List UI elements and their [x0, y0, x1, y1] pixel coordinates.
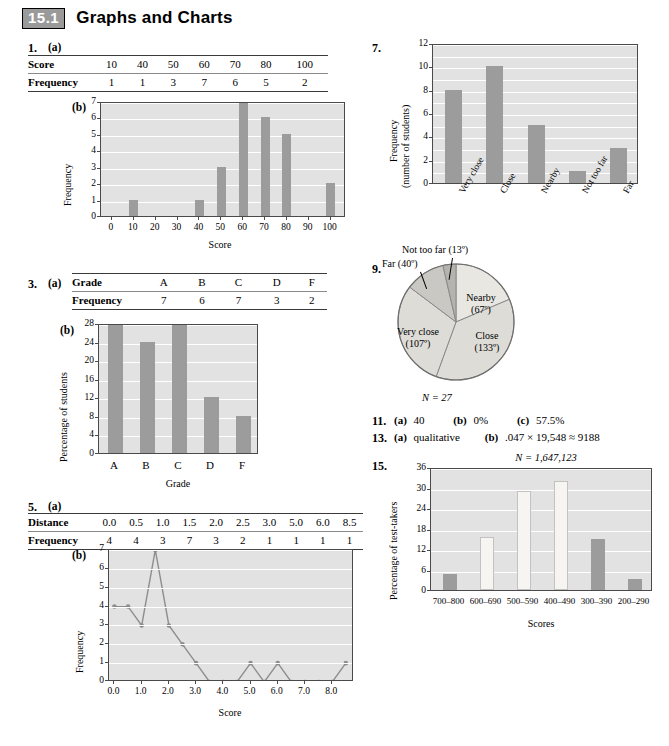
table-cell: 7: [189, 74, 220, 92]
x-tick-label: A: [99, 460, 129, 471]
y-tick-label: 10: [406, 62, 428, 72]
problem-11-b-tag: (b): [453, 414, 466, 426]
pie-label-nearby: Nearby (67º): [450, 292, 512, 315]
bar: [108, 324, 123, 453]
bar: [445, 90, 462, 183]
table-header-frequency: Frequency: [72, 292, 144, 310]
chart-7-container: Frequency (number of students) 024681012…: [384, 40, 669, 235]
y-tick-mark: [97, 201, 100, 202]
problem-3-table: Grade A B C D F Frequency 7 6 7 3 2: [72, 273, 327, 310]
pie-label-not-too-far: Not too far (13º): [402, 244, 542, 256]
table-cell: 70: [220, 56, 251, 74]
bar: [480, 537, 494, 590]
y-tick-mark: [97, 135, 100, 136]
y-tick-mark: [429, 183, 432, 184]
problem-5-part-a: (a): [48, 500, 61, 512]
pie-n-label: N = 27: [422, 392, 452, 403]
problem-9-number: 9.: [372, 262, 381, 277]
problem-15-number: 15.: [372, 459, 387, 474]
table-cell: 80: [251, 56, 282, 74]
y-tick-mark: [95, 417, 98, 418]
y-tick-mark: [95, 361, 98, 362]
bar: [326, 183, 335, 216]
y-tick-label: 0: [74, 212, 96, 222]
gridline: [101, 136, 344, 137]
y-tick-label: 0: [82, 676, 104, 686]
gridline: [433, 68, 637, 69]
x-tick-label: 2.0: [153, 687, 183, 697]
y-tick-mark: [427, 509, 430, 510]
x-tick-mark: [330, 217, 331, 220]
chart-3b-xlabel: Grade: [118, 478, 238, 489]
gridline: [109, 607, 352, 608]
gridline: [101, 152, 344, 153]
gridline: [433, 92, 637, 93]
problem-13-b-tag: (b): [485, 431, 498, 443]
problem-3-number: 3.: [28, 277, 37, 292]
problem-13-a-tag: (a): [394, 431, 407, 443]
gridline-minor: [433, 103, 637, 104]
x-tick-label: 7.0: [289, 687, 319, 697]
x-tick-mark: [168, 681, 169, 684]
y-tick-label: 12: [72, 393, 94, 403]
table-cell: 3.0: [256, 514, 283, 532]
gridline: [101, 119, 344, 120]
bar: [443, 574, 457, 590]
table-header-score: Score: [28, 56, 96, 74]
problem-13-b-value: .047 × 19,548 ≈ 9188: [505, 431, 600, 443]
table-header-grade: Grade: [72, 274, 144, 292]
x-tick-label: C: [163, 460, 193, 471]
y-tick-mark: [97, 184, 100, 185]
x-tick-label: 8.0: [316, 687, 346, 697]
gridline: [433, 45, 637, 46]
y-tick-label: 2: [82, 638, 104, 648]
problem-1-part-a: (a): [48, 41, 61, 53]
y-tick-mark: [105, 624, 108, 625]
gridline-minor: [433, 57, 637, 58]
chart-1b-xlabel: Score: [160, 239, 280, 250]
x-tick-mark: [198, 217, 199, 220]
y-tick-label: 8: [406, 86, 428, 96]
y-tick-mark: [429, 137, 432, 138]
table-cell: 0.0: [96, 514, 123, 532]
chart-1b-plot: [100, 102, 345, 217]
problem-13-answers: (a) qualitative (b) .047 × 19,548 ≈ 9188: [394, 431, 600, 443]
bar: [528, 125, 545, 183]
chart-9-container: Not too far (13º) Far (40º) Nearby (67º)…: [384, 244, 584, 409]
chart-3b-plot: [98, 324, 258, 454]
x-tick-mark: [113, 681, 114, 684]
y-tick-label: 28: [72, 319, 94, 329]
y-tick-label: 0: [404, 586, 426, 596]
problem-13-number: 13.: [372, 431, 387, 446]
bar: [140, 342, 155, 453]
problem-11-answers: (a) 40 (b) 0% (c) 57.5%: [394, 414, 564, 426]
y-tick-mark: [427, 468, 430, 469]
y-tick-mark: [105, 549, 108, 550]
pie-label-very-close-name: Very close: [383, 326, 453, 338]
chart-5b-plot: [108, 549, 353, 681]
x-tick-mark: [177, 217, 178, 220]
x-tick-mark: [242, 217, 243, 220]
gridline: [109, 663, 352, 664]
y-tick-mark: [105, 587, 108, 588]
table-cell: 1: [127, 74, 158, 92]
table-cell: 5.0: [283, 514, 310, 532]
problem-11-c-value: 57.5%: [536, 414, 564, 426]
x-tick-mark: [277, 681, 278, 684]
bar: [554, 481, 568, 590]
table-cell: 1: [96, 74, 127, 92]
problem-11-number: 11.: [372, 414, 386, 429]
gridline: [431, 572, 651, 573]
table-cell: 6: [184, 292, 221, 310]
x-tick-mark: [250, 681, 251, 684]
y-tick-label: 18: [404, 525, 426, 535]
gridline: [101, 103, 344, 104]
gridline: [109, 588, 352, 589]
bar: [486, 66, 503, 183]
problem-11-c-tag: (c): [517, 414, 529, 426]
page-header: 15.1 Graphs and Charts: [22, 8, 233, 29]
x-tick-label: 5.0: [235, 687, 265, 697]
gridline: [431, 510, 651, 511]
y-tick-label: 30: [404, 484, 426, 494]
chart-15-ylabel: Percentage of test-takers: [388, 502, 399, 600]
